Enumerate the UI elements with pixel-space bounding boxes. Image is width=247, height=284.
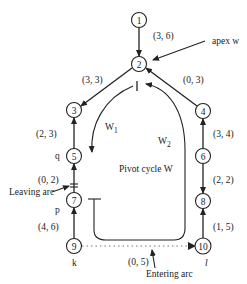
node-q-label: q xyxy=(55,151,60,161)
w1-label: W1 xyxy=(105,122,118,135)
edge-2-3 xyxy=(81,68,132,106)
edge-label-6-8: (2, 2) xyxy=(213,175,234,186)
node-2: 2 xyxy=(132,57,147,72)
network-diagram: 1 2 3 4 5 6 7 8 9 10 (3, 6) (3, 3) (0, 3… xyxy=(0,0,247,284)
node-k-label: k xyxy=(72,258,77,268)
leaving-arc-pointer xyxy=(52,186,69,192)
svg-text:10: 10 xyxy=(198,242,208,252)
svg-text:3: 3 xyxy=(72,106,77,116)
apex-label: apex w xyxy=(212,36,239,46)
node-3: 3 xyxy=(67,103,82,118)
pivot-cycle-label: Pivot cycle W xyxy=(119,164,173,174)
edge-label-10-8: (1, 5) xyxy=(213,222,234,233)
edge-label-1-2: (3, 6) xyxy=(153,31,174,42)
edge-label-9-7: (4, 6) xyxy=(38,222,59,233)
edge-label-5-3: (2, 3) xyxy=(36,129,57,140)
edge-label-7-5: (0, 2) xyxy=(38,175,59,186)
w1-orientation-arc xyxy=(92,86,133,152)
node-8: 8 xyxy=(196,194,211,209)
svg-text:9: 9 xyxy=(72,242,77,252)
entering-arc-label: Entering arc xyxy=(146,269,193,279)
svg-text:7: 7 xyxy=(72,196,77,206)
node-1: 1 xyxy=(132,13,147,28)
node-7: 7 xyxy=(67,193,82,208)
node-9: 9 xyxy=(67,239,82,254)
svg-text:8: 8 xyxy=(201,197,206,207)
node-4: 4 xyxy=(196,104,211,119)
leaving-arc-label: Leaving arc xyxy=(9,187,54,197)
svg-text:5: 5 xyxy=(72,152,77,162)
edge-label-9-10: (0, 5) xyxy=(128,257,149,268)
svg-text:6: 6 xyxy=(201,152,206,162)
apex-pointer xyxy=(153,41,205,60)
svg-text:4: 4 xyxy=(201,107,206,117)
edge-label-6-4: (3, 4) xyxy=(213,129,234,140)
edge-label-2-3: (3, 3) xyxy=(82,75,103,86)
entering-arc-pointer xyxy=(152,250,155,268)
w2-label: W2 xyxy=(158,136,171,149)
svg-text:1: 1 xyxy=(137,16,142,26)
node-p-label: p xyxy=(55,205,60,215)
node-10: 10 xyxy=(195,238,211,254)
svg-text:2: 2 xyxy=(137,60,142,70)
node-l-label: l xyxy=(205,258,208,268)
edge-label-4-2: (0, 3) xyxy=(183,75,204,86)
node-6: 6 xyxy=(196,149,211,164)
w2-orientation-path xyxy=(94,84,185,240)
node-5: 5 xyxy=(67,149,82,164)
